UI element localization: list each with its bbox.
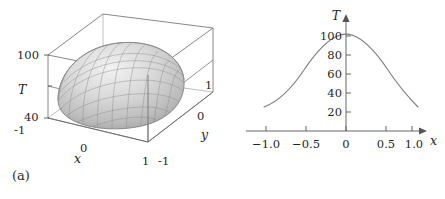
x-axis-ticks bbox=[266, 126, 412, 131]
z-axis-title: T bbox=[18, 82, 28, 97]
x-tick-label-1: 1.0 bbox=[405, 137, 423, 151]
x-axis-title: x bbox=[430, 133, 437, 148]
y-axis-title: T bbox=[332, 8, 342, 23]
y-tick-label-60: 60 bbox=[327, 67, 342, 81]
line-plot-svg: 100 80 60 40 20 −1.0 −0.5 0 0.5 1.0 T x bbox=[222, 0, 445, 165]
panel-a-surface-plot: 100 40 T -1 0 1 x 1 0 -1 y (a) bbox=[0, 0, 222, 199]
z-tick-100: 100 bbox=[17, 48, 39, 62]
x-axis-arrowhead bbox=[419, 127, 427, 134]
y-tick-label-80: 80 bbox=[327, 48, 342, 62]
y-axis-ticks bbox=[346, 36, 351, 112]
y-tick-label-20: 20 bbox=[327, 105, 342, 119]
x-tick-0: 0 bbox=[80, 141, 87, 155]
temperature-surface bbox=[58, 42, 185, 133]
y-tick-label-100: 100 bbox=[320, 29, 342, 43]
y-tick-neg1: -1 bbox=[158, 154, 169, 168]
y-axis-title: y bbox=[200, 127, 209, 142]
figure-container: 100 40 T -1 0 1 x 1 0 -1 y (a) bbox=[0, 0, 445, 199]
panel-b-line-plot: 100 80 60 40 20 −1.0 −0.5 0 0.5 1.0 T x … bbox=[222, 0, 445, 199]
x-tick-label-neg05: −0.5 bbox=[292, 137, 320, 151]
x-tick-label-05: 0.5 bbox=[377, 137, 395, 151]
x-axis-title: x bbox=[74, 151, 81, 166]
z-tick-40: 40 bbox=[24, 110, 39, 124]
x-tick-1: 1 bbox=[142, 154, 149, 168]
x-tick-neg1: -1 bbox=[14, 123, 25, 137]
y-axis-arrowhead bbox=[342, 14, 349, 22]
x-tick-label-0: 0 bbox=[342, 137, 349, 151]
y-tick-1: 1 bbox=[205, 78, 212, 92]
x-tick-label-neg1: −1.0 bbox=[252, 137, 280, 151]
surface-plot-svg: 100 40 T -1 0 1 x 1 0 -1 y bbox=[0, 0, 222, 165]
y-tick-0: 0 bbox=[197, 109, 204, 123]
y-axis bbox=[342, 14, 349, 131]
caption-a: (a) bbox=[12, 168, 30, 183]
x-axis bbox=[246, 127, 427, 134]
y-tick-label-40: 40 bbox=[327, 86, 342, 100]
